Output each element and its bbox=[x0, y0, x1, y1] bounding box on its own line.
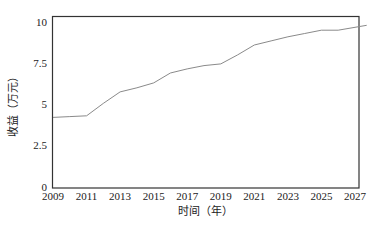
y-axis-ticks: 02.557.510 bbox=[33, 16, 47, 193]
x-tick-label: 2027 bbox=[344, 190, 367, 202]
y-tick-label: 10 bbox=[36, 16, 48, 28]
revenue-series-line bbox=[53, 25, 367, 117]
y-tick-label: 2.5 bbox=[33, 139, 47, 151]
x-tick-label: 2017 bbox=[176, 190, 199, 202]
x-tick-label: 2023 bbox=[277, 190, 300, 202]
y-tick-label: 5 bbox=[42, 98, 48, 110]
x-tick-label: 2011 bbox=[76, 190, 98, 202]
x-tick-label: 2019 bbox=[210, 190, 233, 202]
x-tick-label: 2025 bbox=[310, 190, 333, 202]
x-tick-label: 2013 bbox=[109, 190, 132, 202]
x-tick-label: 2015 bbox=[143, 190, 166, 202]
revenue-line-chart: 02.557.510 20092011201320152017201920212… bbox=[0, 0, 373, 230]
y-axis-title: 收益（万元） bbox=[6, 71, 20, 137]
x-tick-label: 2009 bbox=[42, 190, 65, 202]
x-axis-title: 时间（年） bbox=[178, 204, 233, 218]
y-tick-label: 7.5 bbox=[33, 57, 47, 69]
x-tick-label: 2021 bbox=[243, 190, 265, 202]
x-axis-ticks: 2009201120132015201720192021202320252027 bbox=[42, 190, 367, 202]
plot-frame bbox=[53, 17, 360, 189]
